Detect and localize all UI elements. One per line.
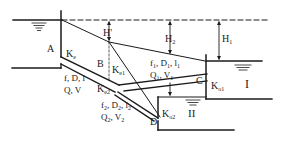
label-main-pipe-flow: Q, V	[64, 85, 82, 95]
label-Ke: Ke	[66, 48, 76, 60]
label-Ke2: Ke2	[97, 83, 110, 95]
label-point-B: B	[97, 58, 104, 69]
upstream-water-symbol-icon	[32, 23, 46, 31]
label-pipe-1-props: f1, D1, l1	[150, 58, 180, 69]
grade-line-main	[62, 20, 109, 42]
label-Ko1: Ko1	[211, 80, 224, 92]
label-point-A: A	[47, 43, 55, 54]
pipe-network-diagram: H' H2 H1 A Ke B Ke1 Ke2 f, D, l Q, V f1,…	[0, 0, 285, 141]
label-pipe-1-flow: Q1, V1	[150, 70, 173, 81]
label-h2: H2	[165, 33, 175, 45]
label-h-prime: H'	[103, 27, 112, 38]
label-reservoir-II: II	[188, 107, 196, 119]
reservoir-I-water-symbol-icon	[235, 65, 251, 70]
label-h1: H1	[222, 33, 232, 45]
label-pipe-2-props: f2, D2, l2	[101, 100, 131, 111]
label-Ko2: Ko2	[162, 108, 175, 120]
label-reservoir-I: I	[245, 77, 249, 91]
label-Ke1: Ke1	[112, 64, 125, 76]
reservoir-II-water-symbol-icon	[186, 100, 200, 105]
label-main-pipe-props: f, D, l	[64, 73, 85, 83]
label-point-D: D	[150, 116, 157, 127]
label-point-C: C	[196, 75, 203, 86]
label-pipe-2-flow: Q2, V2	[101, 112, 124, 123]
